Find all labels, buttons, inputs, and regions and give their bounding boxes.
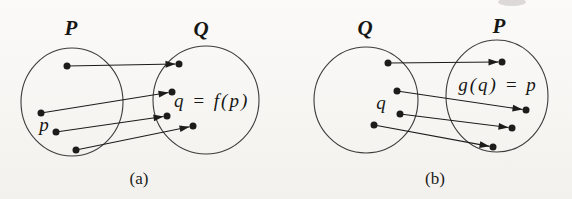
set-label-q-a: Q — [193, 17, 208, 41]
set-label-q-b: Q — [357, 16, 372, 40]
element-dot — [490, 144, 497, 151]
set-circle-p-b — [446, 40, 548, 152]
arrow-head — [179, 125, 189, 132]
mapping-arrow — [374, 125, 490, 146]
element-dot — [371, 122, 378, 129]
arrow-head — [488, 59, 498, 66]
element-dot — [53, 129, 60, 136]
mapping-arrow — [400, 114, 509, 128]
element-dot — [164, 113, 171, 120]
element-dot — [385, 60, 392, 67]
element-dot — [176, 61, 183, 68]
element-dot — [397, 111, 404, 118]
point-label-a: p — [37, 114, 49, 135]
element-dot — [190, 123, 197, 130]
point-label-b: q — [376, 92, 386, 113]
mapping-expression-b: g(q) = p — [458, 74, 537, 96]
figure: PQpq = f(p)(a)QPqg(q) = p(b) — [0, 0, 572, 199]
element-dot — [499, 59, 506, 66]
element-dot — [73, 147, 80, 154]
arrow-head — [153, 115, 163, 122]
element-dot — [394, 88, 401, 95]
arrow-head — [498, 123, 508, 130]
element-dot — [64, 63, 71, 70]
arrow-head — [165, 61, 175, 68]
arrow-head — [479, 141, 489, 148]
mapping-arrow — [76, 127, 190, 150]
subfigure-caption-b: (b) — [425, 169, 445, 188]
set-label-p-a: P — [64, 16, 78, 40]
mapping-expression-a: q = f(p) — [174, 90, 249, 112]
mapping-arrow — [56, 116, 164, 132]
arrow-head — [158, 91, 168, 98]
element-dot — [523, 107, 530, 114]
mapping-arrow — [67, 64, 176, 66]
element-dot — [509, 125, 516, 132]
mapping-diagrams-canvas: PQpq = f(p)(a)QPqg(q) = p(b) — [0, 0, 572, 199]
scan-artifact — [498, 0, 526, 6]
mapping-arrow — [388, 62, 499, 63]
subfigure-caption-a: (a) — [130, 169, 149, 188]
set-label-p-b: P — [492, 14, 506, 38]
arrow-head — [512, 105, 522, 112]
mapping-arrow — [41, 93, 169, 113]
